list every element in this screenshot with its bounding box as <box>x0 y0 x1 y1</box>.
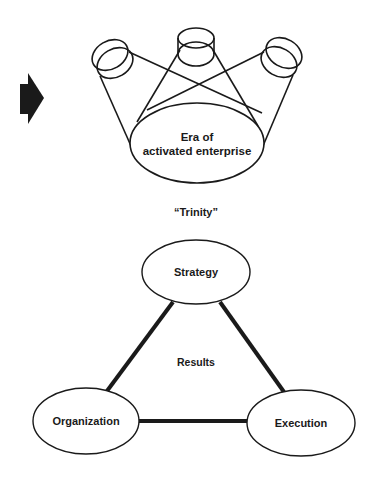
trinity-caption: “Trinity” <box>174 206 218 218</box>
era-label-line2: activated enterprise <box>143 145 252 157</box>
right-arrow-icon <box>20 73 44 124</box>
execution-node: Execution <box>247 390 355 456</box>
center-cylinder-icon <box>178 28 214 66</box>
strategy-label: Strategy <box>174 266 219 278</box>
era-node: Era of activated enterprise <box>130 103 264 183</box>
organization-node: Organization <box>33 388 139 454</box>
edge-strategy-organization <box>107 302 173 391</box>
strategy-node: Strategy <box>142 240 250 304</box>
diagram-canvas: Era of activated enterprise “Trinity” St… <box>0 0 374 477</box>
right-cylinder-icon <box>256 31 308 83</box>
era-label-line1: Era of <box>181 131 214 143</box>
execution-label: Execution <box>275 417 328 429</box>
left-cylinder-icon <box>87 33 139 84</box>
organization-label: Organization <box>52 415 120 427</box>
results-label: Results <box>177 356 215 368</box>
edge-strategy-execution <box>220 302 284 392</box>
